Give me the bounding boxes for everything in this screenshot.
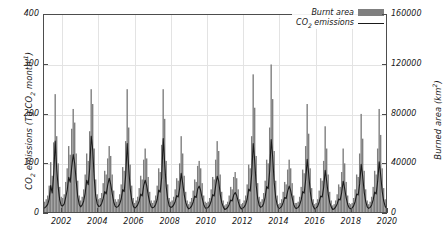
right-y-tick-mark — [382, 14, 387, 15]
burnt-area-bar — [360, 114, 361, 213]
right-y-tick-mark — [382, 64, 387, 65]
x-tick-label: 2008 — [152, 217, 188, 226]
x-tick-label: 2012 — [224, 217, 260, 226]
x-tick-mark — [315, 208, 316, 213]
x-tick-label: 2016 — [297, 217, 333, 226]
right-y-tick-mark — [382, 163, 387, 164]
x-tick-mark — [242, 208, 243, 213]
x-tick-label: 2006 — [116, 217, 152, 226]
left-y-tick-label: 300 — [2, 59, 39, 68]
burnt-area-bar — [69, 155, 70, 213]
x-tick-label: 2018 — [333, 217, 369, 226]
left-y-tick-label: 400 — [2, 9, 39, 18]
x-tick-mark — [61, 208, 62, 213]
x-tick-mark — [97, 208, 98, 213]
burnt-area-bar — [378, 109, 379, 213]
legend-item-burnt-area: Burnt area — [292, 7, 384, 18]
right-y-tick-label: 160000 — [391, 9, 441, 18]
burnt-area-bar — [87, 161, 88, 213]
right-y-tick-label: 40000 — [391, 158, 441, 167]
left-y-tick-mark — [43, 64, 48, 65]
burnt-area-bar — [324, 126, 325, 213]
legend-swatch-line-icon — [358, 23, 384, 24]
right-y-tick-label: 120000 — [391, 59, 441, 68]
x-tick-label: 2004 — [79, 217, 115, 226]
legend-label-co2-emissions: CO2 emissions — [296, 18, 354, 29]
left-y-tick-label: 200 — [2, 109, 39, 118]
left-y-tick-label: 0 — [2, 208, 39, 217]
x-tick-mark — [278, 208, 279, 213]
x-tick-mark — [387, 208, 388, 213]
right-y-tick-label: 0 — [391, 208, 441, 217]
data-layer — [44, 15, 386, 213]
legend-item-co2-emissions: CO2 emissions — [292, 18, 384, 29]
plot-area — [43, 14, 387, 213]
x-tick-label: 2010 — [188, 217, 224, 226]
burnt-area-bar — [306, 104, 307, 213]
x-tick-label: 2014 — [260, 217, 296, 226]
right-y-tick-mark — [382, 213, 387, 214]
right-y-tick-label: 80000 — [391, 109, 441, 118]
left-y-tick-mark — [43, 213, 48, 214]
left-y-tick-label: 100 — [2, 158, 39, 167]
x-tick-mark — [134, 208, 135, 213]
legend-swatch-bar-icon — [358, 9, 384, 16]
left-y-tick-mark — [43, 163, 48, 164]
x-tick-mark — [206, 208, 207, 213]
left-y-tick-mark — [43, 114, 48, 115]
x-tick-label: 2020 — [369, 217, 405, 226]
x-tick-mark — [351, 208, 352, 213]
left-y-tick-mark — [43, 14, 48, 15]
x-tick-label: 2002 — [43, 217, 79, 226]
legend-label-burnt-area: Burnt area — [311, 8, 354, 17]
burnt-area-bar — [270, 64, 271, 212]
legend: Burnt area CO2 emissions — [292, 7, 384, 29]
right-y-tick-mark — [382, 114, 387, 115]
x-tick-mark — [170, 208, 171, 213]
